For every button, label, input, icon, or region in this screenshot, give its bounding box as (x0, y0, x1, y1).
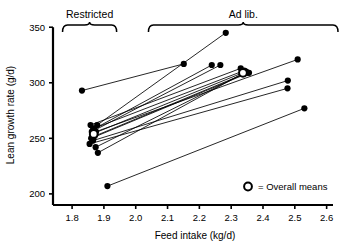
pair-connector-line (91, 68, 241, 125)
pair-connector-line (93, 81, 288, 141)
data-point-adlib (295, 56, 301, 62)
y-tick-label: 250 (29, 133, 45, 144)
y-tick-label: 200 (29, 188, 45, 199)
pair-connector-line (93, 65, 212, 129)
data-point-adlib (181, 61, 187, 67)
x-tick-label: 1.8 (65, 212, 78, 223)
pair-connector-line (82, 64, 184, 91)
pair-connector-line (107, 108, 304, 186)
y-tick-label: 350 (29, 22, 45, 33)
data-point-restricted (104, 183, 110, 189)
pair-connector-line (96, 59, 298, 131)
x-tick-label: 2.0 (129, 212, 142, 223)
x-tick-label: 2.2 (193, 212, 206, 223)
legend-label: = Overall means (258, 181, 328, 192)
data-point-adlib (284, 85, 290, 91)
data-point-adlib (209, 62, 215, 68)
x-tick-label: 2.4 (256, 212, 269, 223)
overall-mean-marker (239, 69, 247, 77)
data-point-adlib (285, 77, 291, 83)
pair-connector-line (98, 72, 246, 153)
data-point-adlib (217, 62, 223, 68)
restricted-group-label: Restricted (66, 8, 113, 20)
adlib-group-brace (148, 22, 338, 32)
data-point-adlib (301, 105, 307, 111)
chart-container: 2002503003501.81.92.02.12.22.32.42.52.6F… (0, 0, 343, 246)
x-tick-label: 1.9 (97, 212, 110, 223)
data-point-restricted (86, 141, 92, 147)
y-tick-label: 300 (29, 77, 45, 88)
x-tick-label: 2.5 (288, 212, 301, 223)
legend-open-circle-icon (244, 183, 252, 191)
y-axis-title: Lean growth rate (g/d) (5, 66, 16, 164)
scatter-chart: 2002503003501.81.92.02.12.22.32.42.52.6F… (0, 0, 343, 246)
data-point-adlib (223, 30, 229, 36)
x-axis-title: Feed intake (kg/d) (155, 230, 236, 241)
x-tick-label: 2.6 (320, 212, 333, 223)
restricted-group-brace (63, 22, 117, 32)
data-point-restricted (93, 144, 99, 150)
x-tick-label: 2.3 (225, 212, 238, 223)
adlib-group-label: Ad lib. (229, 8, 258, 20)
x-tick-label: 2.1 (161, 212, 174, 223)
data-point-restricted (95, 150, 101, 156)
pair-connector-line (94, 71, 244, 129)
overall-mean-marker (90, 130, 98, 138)
data-point-restricted (79, 87, 85, 93)
